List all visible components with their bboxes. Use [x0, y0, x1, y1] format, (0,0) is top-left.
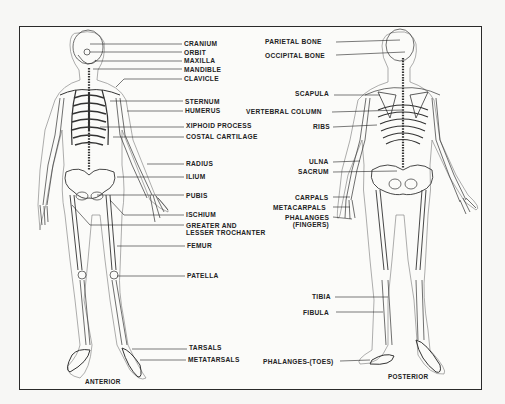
bone-label: XIPHOID PROCESS — [186, 122, 252, 129]
caption-posterior: POSTERIOR — [388, 373, 428, 380]
leader-line — [333, 217, 352, 219]
bone-label: ILIUM — [186, 173, 205, 180]
anterior-skeleton — [38, 30, 168, 379]
bone-label: CRANIUM — [184, 40, 217, 47]
leader-line — [333, 125, 377, 127]
leader-line — [110, 200, 184, 215]
bone-label: PARIETAL BONE — [265, 38, 322, 45]
bone-label: STERNUM — [185, 98, 220, 105]
bone-label: MANDIBLE — [184, 66, 221, 73]
bone-label: SACRUM — [298, 168, 329, 175]
skeleton-illustration — [0, 0, 505, 404]
bone-label: VERTEBRAL COLUMN — [246, 108, 322, 115]
bone-label: OCCIPITAL BONE — [265, 52, 325, 59]
leader-line — [336, 40, 400, 42]
leader-lines — [72, 40, 405, 361]
bone-label: SCAPULA — [295, 90, 329, 97]
bone-label: FIBULA — [303, 309, 329, 316]
bone-label: METACARPALS — [273, 204, 326, 211]
bone-label: TARSALS — [189, 344, 222, 351]
bone-label: PHALANGES-(TOES) — [263, 358, 334, 365]
posterior-skeleton — [337, 29, 477, 374]
leader-line — [116, 79, 182, 87]
bone-label: MAXILLA — [184, 57, 215, 64]
caption-anterior: ANTERIOR — [85, 378, 121, 385]
bone-label: GREATER ANDLESSER TROCHANTER — [186, 222, 265, 236]
bone-label: RIBS — [313, 123, 330, 130]
leader-line — [333, 161, 360, 162]
bone-label: PHALANGES(FINGERS) — [285, 214, 329, 228]
bone-label: HUMERUS — [185, 107, 220, 114]
leader-line — [340, 360, 370, 361]
bone-label: FEMUR — [187, 242, 212, 249]
leader-line — [333, 171, 397, 172]
bone-label: ISCHIUM — [186, 211, 216, 218]
bone-label: METATARSALS — [188, 356, 240, 363]
bone-label: TIBIA — [312, 293, 331, 300]
bone-label: ULNA — [309, 158, 329, 165]
bone-label: CLAVICLE — [184, 75, 219, 82]
bone-label: COSTAL CARTILAGE — [186, 133, 258, 140]
bone-label: PATELLA — [187, 272, 219, 279]
bone-label: ORBIT — [184, 49, 206, 56]
bone-label: RADIUS — [186, 160, 213, 167]
bone-label: PUBIS — [186, 192, 208, 199]
leader-line — [336, 52, 405, 55]
bone-label: CARPALS — [295, 194, 328, 201]
